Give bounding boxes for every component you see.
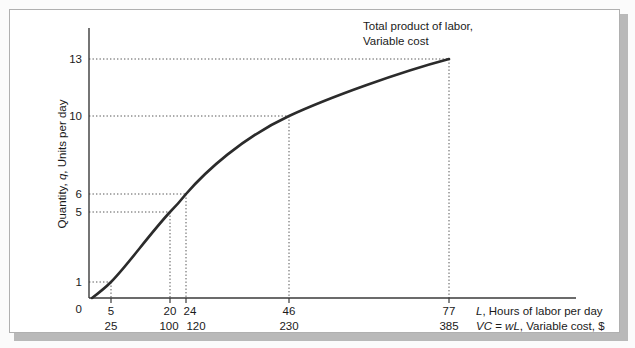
x-tick2-label-385: 385 [439,320,458,332]
figure-panel: 13 10 6 5 1 0 5 20 24 46 77 25 100 120 2… [9,9,620,333]
x-tick2-label-100: 100 [159,320,178,332]
y-tick-label-10: 10 [69,110,82,122]
x-axis-title: L, Hours of labor per day [476,305,603,317]
y-tick-label-1: 1 [76,276,82,288]
y-tick-label-6: 6 [76,188,82,200]
curve-label-line1: Total product of labor, [363,20,473,32]
x-tick2-label-230: 230 [279,320,298,332]
chart-svg: 13 10 6 5 1 0 5 20 24 46 77 25 100 120 2… [10,10,621,334]
y-tick-label-5: 5 [76,206,82,218]
x-tick2-label-25: 25 [105,320,118,332]
x-tick-label-24: 24 [184,305,197,317]
y-axis-title: Quantity, q, Units per day [56,99,68,228]
x-tick2-label-120: 120 [186,320,205,332]
x-tick-label-46: 46 [283,305,296,317]
x-tick-label-20: 20 [164,305,177,317]
y-tick-label-0: 0 [76,303,82,315]
x-tick-label-5: 5 [108,305,114,317]
total-product-curve [92,59,449,298]
curve-label-line2: Variable cost [363,35,429,47]
y-tick-label-13: 13 [69,53,82,65]
x-tick-label-77: 77 [443,305,456,317]
x-axis-title-secondary: VC = wL, Variable cost, $ [476,320,605,332]
chart-plot-area: 13 10 6 5 1 0 5 20 24 46 77 25 100 120 2… [10,10,621,334]
